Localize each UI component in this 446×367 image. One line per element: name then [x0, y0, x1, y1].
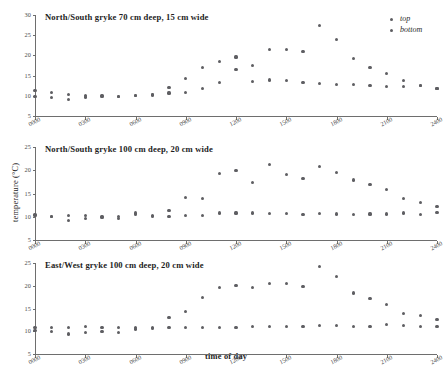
data-point-top [335, 275, 338, 278]
data-point-bottom [285, 325, 288, 328]
y-tick-label: 5 [13, 350, 31, 357]
y-tick-label: 10 [13, 327, 31, 334]
data-point-bottom [419, 325, 422, 328]
data-point-top [285, 282, 288, 285]
data-point-top [301, 285, 304, 288]
x-tick-label: 0900 [178, 353, 192, 365]
data-point-top [318, 265, 321, 268]
x-tick-label: 2100 [379, 353, 393, 365]
data-point-bottom [435, 325, 438, 328]
data-point-top [184, 310, 187, 313]
data-point-bottom [134, 327, 137, 330]
data-point-top [234, 284, 237, 287]
data-point-bottom [100, 330, 103, 333]
data-point-bottom [201, 326, 204, 329]
data-point-top [117, 326, 120, 329]
data-point-bottom [50, 330, 53, 333]
x-tick-label: 0600 [128, 353, 142, 365]
data-point-top [167, 316, 170, 319]
data-point-bottom [268, 325, 271, 328]
data-point-top [419, 314, 422, 317]
data-point-bottom [318, 324, 321, 327]
y-tick-label: 15 [13, 305, 31, 312]
data-point-top [251, 286, 254, 289]
x-tick-label: 1800 [329, 353, 343, 365]
data-point-bottom [251, 325, 254, 328]
data-point-bottom [301, 325, 304, 328]
plot-area: 5101520250000030006000900120015001800210… [0, 0, 446, 367]
data-point-bottom [184, 326, 187, 329]
data-point-top [368, 297, 371, 300]
data-point-bottom [33, 329, 36, 332]
data-point-top [33, 326, 36, 329]
data-point-top [352, 291, 355, 294]
data-point-bottom [84, 331, 87, 334]
data-point-bottom [368, 325, 371, 328]
data-point-top [385, 303, 388, 306]
data-point-bottom [67, 332, 70, 335]
data-point-top [84, 325, 87, 328]
data-point-bottom [218, 326, 221, 329]
data-point-top [201, 296, 204, 299]
chart-panel-3: East/West gryke 100 cm deep, 20 cm wide … [0, 0, 446, 367]
data-point-bottom [335, 324, 338, 327]
data-point-bottom [234, 326, 237, 329]
x-tick-label: 1200 [228, 353, 242, 365]
x-tick-label: 0300 [77, 353, 91, 365]
data-point-top [268, 282, 271, 285]
data-point-bottom [352, 325, 355, 328]
x-tick-label: 1500 [278, 353, 292, 365]
data-point-top [50, 326, 53, 329]
data-point-top [100, 326, 103, 329]
data-point-top [435, 318, 438, 321]
figure-root: temperature (°C) time of day North/South… [0, 0, 446, 367]
x-tick-label: 2400 [429, 353, 443, 365]
y-tick [33, 309, 36, 310]
data-point-bottom [151, 327, 154, 330]
data-point-bottom [117, 331, 120, 334]
data-point-bottom [167, 326, 170, 329]
y-tick [33, 263, 36, 264]
data-point-top [218, 286, 221, 289]
data-point-bottom [385, 323, 388, 326]
y-tick-label: 25 [13, 259, 31, 266]
y-tick [33, 286, 36, 287]
data-point-top [67, 326, 70, 329]
data-point-top [402, 312, 405, 315]
data-point-bottom [402, 324, 405, 327]
y-tick-label: 20 [13, 282, 31, 289]
